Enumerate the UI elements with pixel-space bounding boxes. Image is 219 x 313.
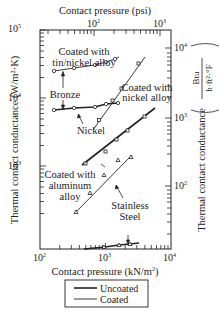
label-tin-nickel-2: tin/nickel alloy [52,57,116,68]
svg-text:102: 102 [33,252,46,263]
left-axis-title: Thermal contact conductance (W/m²·K) [9,55,21,224]
legend-coated-label: Coated [100,294,128,305]
svg-text:103: 103 [153,18,166,29]
svg-text:105: 105 [8,23,21,34]
legend-uncoated-label: Uncoated [100,283,138,294]
label-stainless-2: Steel [120,211,141,222]
svg-text:Btu: Btu [191,71,201,85]
top-axis-title: Contact pressure (psi) [59,5,152,17]
svg-text:103: 103 [98,252,111,263]
top-axis-ticks [48,30,160,36]
chart: 105 104 103 104 103 102 102 103 104 102 … [0,0,219,313]
svg-text:102: 102 [87,18,100,29]
svg-text:104: 104 [174,42,187,53]
series-nickel [82,108,155,165]
label-aluminum-1: Coated with [44,169,96,180]
svg-text:102: 102 [174,180,187,191]
label-stainless-1: Stainless [111,200,148,211]
label-nickel: Nickel [77,125,105,136]
svg-text:Thermal contact conductance: Thermal contact conductance [196,108,207,232]
svg-text:104: 104 [163,252,176,263]
left-axis-ticks [40,30,46,214]
bottom-axis-title: Contact pressure (kN/m2) [52,266,159,278]
right-axis-ticks [165,48,171,234]
svg-text:103: 103 [174,112,187,123]
label-tin-nickel-1: Coated with [58,46,110,57]
legend: Uncoated Coated [65,280,148,307]
series-labels: Coated with tin/nickel alloy Bronze Coat… [44,46,173,222]
label-bronze: Bronze [50,89,81,100]
label-nickel-alloy-2: nickel alloy [122,92,172,103]
label-aluminum-3: alloy [60,191,82,202]
svg-text:h·ft²·°F: h·ft²·°F [204,64,214,91]
right-axis-title: Thermal contact conductance Btu h·ft²·°F [191,44,219,232]
series-stainless-steel [84,242,139,249]
label-aluminum-2: aluminum [49,180,92,191]
